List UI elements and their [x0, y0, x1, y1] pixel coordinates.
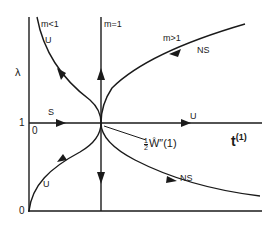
m-equal-1-label: m=1	[104, 20, 122, 29]
lower-left-stability: U	[43, 180, 50, 189]
lower-right-stability: NS	[180, 174, 193, 183]
lower-left-curve	[29, 123, 101, 211]
arrow-s	[56, 119, 66, 127]
y-axis-label: λ	[15, 67, 21, 78]
x-axis-label: t(1)	[231, 133, 247, 148]
annotation-label: 12Ŵ″(1)	[144, 138, 177, 151]
y-tick-1: 1	[19, 118, 25, 128]
arrow-m-equal-1-up	[97, 68, 105, 80]
m-less-1-stability: U	[45, 36, 52, 45]
origin-on-line-1: 0	[32, 126, 38, 136]
annotation-pointer	[104, 126, 146, 140]
horizontal-left-stability: S	[48, 108, 54, 117]
annotation-fraction: 12	[144, 138, 148, 151]
annotation-symbol: Ŵ″(1)	[149, 137, 177, 149]
m-greater-1-stability: NS	[197, 46, 210, 55]
m-less-1-label: m<1	[41, 20, 59, 29]
phase-diagram	[0, 0, 276, 225]
y-tick-0: 0	[19, 206, 25, 216]
horizontal-right-stability: U	[190, 112, 197, 121]
x-axis-label-superscript: (1)	[236, 132, 247, 142]
m-greater-1-label: m>1	[163, 34, 181, 43]
m-less-1-curve	[37, 17, 101, 123]
arrow-m-less-1	[57, 68, 66, 80]
arrow-m-equal-1-down	[97, 172, 105, 184]
